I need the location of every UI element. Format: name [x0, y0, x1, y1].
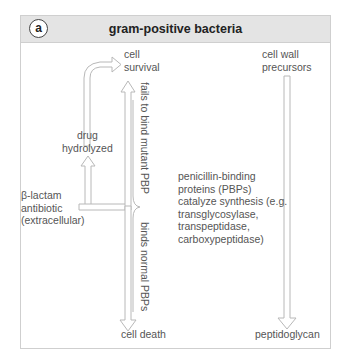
cell-wall-precursors-label: cell wall precursors — [262, 48, 312, 73]
binds-normal-pbps-label: binds normal PBPs — [139, 222, 151, 311]
pbp-description: penicillin-binding proteins (PBPs) catal… — [178, 170, 287, 245]
peptidoglycan-label: peptidoglycan — [255, 328, 320, 341]
arrow-to-cell-death — [120, 206, 136, 331]
fails-to-bind-label: fails to bind mutant PBP — [139, 82, 151, 194]
cell-survival-label: cell survival — [124, 48, 160, 73]
beta-lactam-antibiotic-label: β-lactam antibiotic (extracellular) — [21, 189, 85, 227]
drug-hydrolyzed-label: drug hydrolyzed — [62, 129, 113, 154]
cell-death-label: cell death — [121, 328, 166, 341]
antibiotic-connector — [79, 204, 126, 210]
